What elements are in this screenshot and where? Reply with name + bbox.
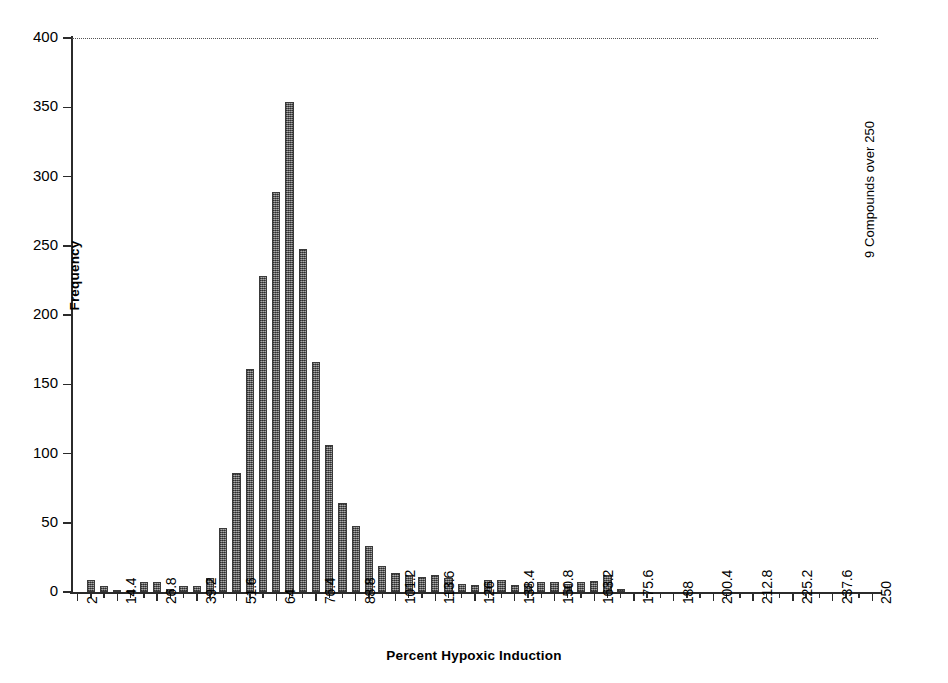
histogram-bar	[285, 102, 293, 592]
x-axis-minor-tick	[620, 593, 621, 598]
histogram-bar	[550, 582, 558, 592]
x-axis-tick-label: 76.4	[322, 578, 338, 604]
histogram-bar	[431, 575, 439, 592]
over-250-annotation: 9 Compounds over 250	[862, 78, 877, 258]
x-axis-tick-label: 64	[282, 589, 298, 604]
x-axis-tick-label: 101.2	[402, 570, 418, 604]
y-axis-tick-label: 250	[18, 236, 58, 253]
histogram-bar	[179, 586, 187, 592]
histogram-bar	[352, 526, 360, 592]
histogram-bar	[140, 582, 148, 592]
y-axis-tick-label: 200	[18, 305, 58, 322]
histogram-bar	[497, 580, 505, 592]
x-axis-tick	[673, 593, 674, 601]
x-axis-minor-tick	[819, 593, 820, 598]
histogram-bar	[232, 473, 240, 592]
y-axis-tick	[63, 453, 71, 455]
histogram-bar	[272, 192, 280, 592]
histogram-bar	[100, 586, 108, 592]
histogram-bar	[617, 589, 625, 592]
y-axis-tick	[63, 384, 71, 386]
x-axis-minor-tick	[660, 593, 661, 598]
y-axis-tick	[63, 37, 71, 39]
x-axis-tick-label: 51.6	[243, 578, 259, 604]
x-axis-tick	[594, 593, 595, 601]
y-axis-tick-label: 100	[18, 444, 58, 461]
histogram-bar	[312, 362, 320, 592]
x-axis-tick	[872, 593, 873, 601]
histogram-bar	[219, 528, 227, 592]
x-axis-minor-tick	[501, 593, 502, 598]
x-axis-tick-label: 26.8	[163, 578, 179, 604]
x-axis-tick-label: 14.4	[123, 578, 139, 604]
x-axis-tick-label: 88.8	[362, 578, 378, 604]
x-axis-tick	[355, 593, 356, 601]
y-axis-tick	[63, 522, 71, 524]
histogram-bar	[299, 249, 307, 592]
histogram-bar	[325, 445, 333, 592]
histogram-bar	[246, 369, 254, 592]
histogram-chart: 050100150200250300350400 Frequency 214.4…	[0, 0, 948, 683]
x-axis-tick	[196, 593, 197, 601]
x-axis-minor-tick	[541, 593, 542, 598]
x-axis-tick-label: 126	[481, 581, 497, 604]
y-axis-tick-label: 50	[18, 513, 58, 530]
x-axis-tick-label: 250	[878, 581, 894, 604]
x-axis-tick-label: 212.8	[759, 570, 775, 604]
x-axis-tick	[713, 593, 714, 601]
x-axis-minor-tick	[580, 593, 581, 598]
x-axis-tick-label: 188	[680, 581, 696, 604]
x-axis-tick	[474, 593, 475, 601]
x-axis-tick-label: 175.6	[640, 570, 656, 604]
x-axis-tick	[236, 593, 237, 601]
y-axis-tick-label: 300	[18, 167, 58, 184]
histogram-bar	[590, 581, 598, 592]
x-axis-tick-label: 163.2	[600, 570, 616, 604]
x-axis-title: Percent Hypoxic Induction	[0, 648, 948, 663]
x-axis-minor-tick	[183, 593, 184, 598]
x-axis-tick	[832, 593, 833, 601]
histogram-bar	[391, 573, 399, 592]
histogram-bar	[418, 577, 426, 592]
x-axis-tick	[315, 593, 316, 601]
histogram-bar	[259, 276, 267, 592]
y-axis-tick-label: 400	[18, 28, 58, 45]
x-axis-tick-label: 200.4	[719, 570, 735, 604]
x-axis-minor-tick	[739, 593, 740, 598]
plot-area	[71, 38, 879, 592]
x-axis-minor-tick	[223, 593, 224, 598]
x-axis-tick	[156, 593, 157, 601]
x-axis-minor-tick	[382, 593, 383, 598]
histogram-bar	[471, 585, 479, 592]
histogram-bar	[537, 582, 545, 592]
x-axis-tick-label: 2	[84, 596, 100, 604]
histogram-bar	[193, 586, 201, 592]
y-axis-tick	[63, 591, 71, 593]
x-axis-tick	[633, 593, 634, 601]
x-axis-tick-label: 150.8	[560, 570, 576, 604]
x-axis-minor-tick	[103, 593, 104, 598]
histogram-bar	[153, 582, 161, 592]
histogram-bar	[338, 503, 346, 592]
x-axis-minor-tick	[461, 593, 462, 598]
x-axis-minor-tick	[302, 593, 303, 598]
histogram-bar	[458, 584, 466, 592]
y-axis-tick	[63, 176, 71, 178]
x-axis-tick	[117, 593, 118, 601]
x-axis-minor-tick	[421, 593, 422, 598]
y-axis-tick-label: 150	[18, 374, 58, 391]
histogram-bar	[87, 580, 95, 592]
x-axis-tick	[395, 593, 396, 601]
histogram-bar	[511, 585, 519, 592]
x-axis-tick	[752, 593, 753, 601]
x-axis-tick-label: 113.6	[441, 571, 457, 604]
x-axis-tick	[792, 593, 793, 601]
x-axis-minor-tick	[858, 593, 859, 598]
x-axis-minor-tick	[699, 593, 700, 598]
x-axis-tick	[554, 593, 555, 601]
x-axis-minor-tick	[143, 593, 144, 598]
histogram-bar	[113, 590, 121, 592]
x-axis-tick	[514, 593, 515, 601]
x-axis-minor-tick	[262, 593, 263, 598]
x-axis-minor-tick	[342, 593, 343, 598]
